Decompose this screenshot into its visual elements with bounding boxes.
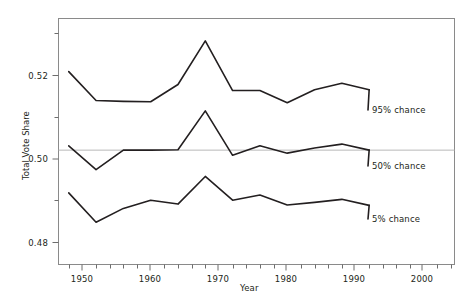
x-tick-label-1970: 1970 — [207, 274, 229, 284]
x-axis-minor-ticks — [70, 265, 452, 269]
x-axis-title: Year — [240, 283, 259, 293]
y-axis-title: Total Vote Share — [21, 111, 31, 180]
x-tick-label-1980: 1980 — [275, 274, 297, 284]
line-chart: 0.52 0.50 0.48 1950 1960 1970 1980 1990 … — [0, 0, 472, 308]
y-tick-label-052: 0.52 — [28, 71, 48, 81]
x-tick-label-2000: 2000 — [411, 274, 433, 284]
x-tick-label-1960: 1960 — [139, 274, 161, 284]
x-tick-label-1950: 1950 — [71, 274, 93, 284]
chart-figure: 0.52 0.50 0.48 1950 1960 1970 1980 1990 … — [0, 0, 472, 308]
series-label-95: 95% chance — [372, 105, 426, 115]
plot-frame — [59, 19, 455, 265]
x-tick-label-1990: 1990 — [343, 274, 365, 284]
series-label-5: 5% chance — [372, 214, 420, 224]
y-axis-major-ticks — [53, 76, 59, 243]
series-label-50: 50% chance — [372, 161, 426, 171]
y-tick-label-050: 0.50 — [28, 154, 48, 164]
y-axis-minor-ticks — [55, 34, 59, 201]
y-tick-label-048: 0.48 — [28, 238, 48, 248]
x-axis-major-ticks — [82, 265, 422, 271]
